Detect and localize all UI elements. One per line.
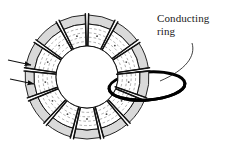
field-direction-dot: [125, 61, 127, 63]
field-direction-dot: [76, 35, 78, 37]
field-direction-dot: [86, 118, 88, 120]
field-direction-dot: [96, 35, 98, 37]
field-direction-dot: [52, 100, 54, 102]
field-direction-dot: [106, 113, 108, 115]
conducting-ring-label-line1: Conducting: [157, 12, 209, 24]
field-direction-dot: [114, 45, 116, 47]
field-direction-dot: [44, 81, 46, 83]
field-direction-dot: [121, 100, 123, 102]
torus-hole: [56, 46, 118, 108]
torus-inner-hole: [56, 46, 118, 108]
field-direction-dot: [47, 61, 49, 63]
coil-winding-bar: [85, 14, 86, 47]
conducting-ring-label-line2: ring: [157, 25, 209, 38]
conducting-ring-label: Conducting ring: [157, 12, 209, 37]
field-direction-dot: [58, 45, 60, 47]
field-direction-dot: [128, 81, 130, 83]
toroid-conducting-ring-figure: Conducting ring: [0, 0, 225, 158]
field-direction-dot: [67, 113, 69, 115]
coil-winding-bar: [88, 14, 89, 47]
